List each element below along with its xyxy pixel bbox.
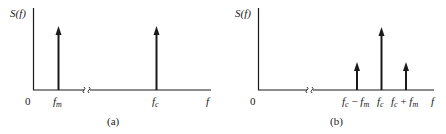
panel-b-f-axis-label: f — [431, 96, 434, 107]
panel-a-axis-break-icon — [83, 87, 90, 93]
label-part: c — [380, 100, 384, 109]
panel-a-y-label: S(f) — [10, 8, 26, 19]
panel-a-caption: (a) — [107, 116, 119, 127]
fc-sub: c — [155, 100, 159, 109]
panel-b-axis-break-icon — [306, 87, 313, 93]
panel-a-fm-label: fm — [53, 96, 62, 109]
label-part: m — [363, 100, 369, 109]
panel-a-fc-label: fc — [152, 96, 159, 109]
panel-b-arrowhead-fc-plus-fm — [403, 62, 409, 71]
panel-b-fc-plus-fm-label: fc + fm — [391, 96, 418, 109]
panel-b-fc-label: fc — [377, 96, 384, 109]
panel-a-arrowhead-fm — [56, 26, 62, 35]
panel-b-fc-minus-fm-label: fc − fm — [342, 96, 369, 109]
panel-a-graphics — [33, 8, 211, 93]
spectrum-diagrams — [0, 0, 446, 134]
panel-b-caption: (b) — [330, 116, 343, 127]
panel-b-arrowhead-fc-minus-fm — [354, 62, 360, 71]
panel-a-f-axis-label: f — [206, 96, 209, 107]
panel-b-graphics — [258, 8, 434, 93]
panel-b-y-label: S(f) — [235, 8, 251, 19]
panel-b-origin-label: 0 — [250, 96, 256, 107]
label-part: m — [412, 100, 418, 109]
fm-sub: m — [56, 100, 62, 109]
label-part: − — [349, 95, 361, 107]
panel-a-arrowhead-fc — [154, 26, 160, 35]
label-part: + — [398, 95, 410, 107]
panel-b-arrowhead-fc — [379, 27, 385, 36]
panel-a-origin-label: 0 — [25, 96, 31, 107]
